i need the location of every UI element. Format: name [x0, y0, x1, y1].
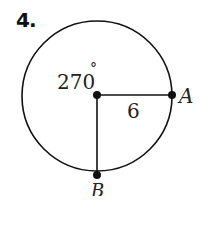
degree-symbol: °: [90, 60, 97, 76]
radius-label: 6: [127, 99, 140, 123]
point-b-label: B: [91, 180, 104, 196]
point-a-label: A: [179, 84, 193, 108]
point-b-dot: [93, 171, 101, 179]
point-a-dot: [168, 91, 176, 99]
